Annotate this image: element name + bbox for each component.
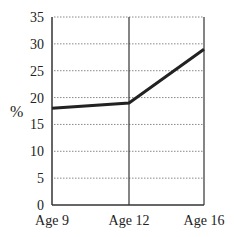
x-tick-label: Age 9: [35, 213, 69, 228]
y-tick-label: 0: [37, 198, 44, 213]
y-tick-label: 15: [30, 117, 44, 132]
axes: [52, 17, 204, 205]
y-tick-label: 5: [37, 171, 44, 186]
y-axis-label: %: [10, 103, 23, 120]
y-tick-label: 30: [30, 37, 44, 52]
y-tick-labels: 05101520253035: [30, 10, 44, 213]
x-tick-labels: Age 9Age 12Age 16: [35, 213, 224, 228]
x-tick-label: Age 16: [184, 213, 225, 228]
y-tick-label: 35: [30, 10, 44, 25]
y-tick-label: 10: [30, 144, 44, 159]
line-chart: 05101520253035 Age 9Age 12Age 16 %: [0, 0, 234, 237]
y-tick-label: 25: [30, 64, 44, 79]
y-tick-label: 20: [30, 91, 44, 106]
data-series: [52, 49, 204, 108]
x-tick-label: Age 12: [109, 213, 150, 228]
series-line: [52, 49, 204, 108]
